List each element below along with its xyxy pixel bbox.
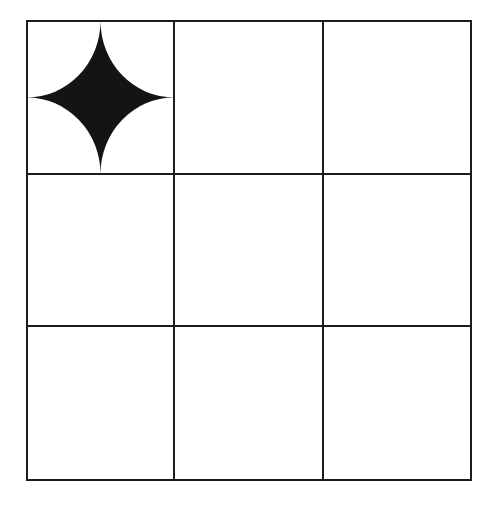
grid-cell-r1-c1 (174, 174, 323, 326)
grid-cell-r2-c2 (323, 326, 471, 480)
cells-layer (27, 21, 471, 480)
grid-diagram (0, 0, 494, 506)
grid-cell-r1-c0 (27, 174, 174, 326)
grid-cell-r0-c2 (323, 21, 471, 174)
grid-cell-r0-c1 (174, 21, 323, 174)
grid-cell-r2-c0 (27, 326, 174, 480)
grid-cell-r0-c0 (27, 21, 174, 174)
grid-cell-r1-c2 (323, 174, 471, 326)
grid-cell-r2-c1 (174, 326, 323, 480)
